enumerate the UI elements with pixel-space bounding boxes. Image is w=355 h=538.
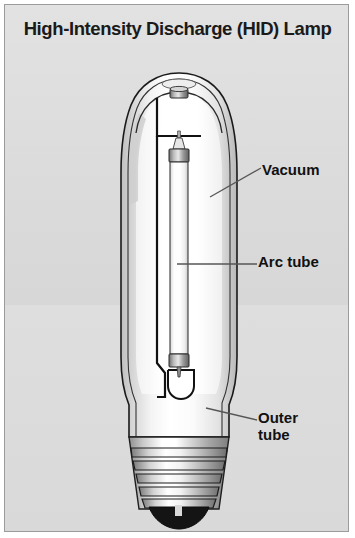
figure-root: High-Intensity Discharge (HID) Lamp (0, 0, 355, 538)
arc-tube-top-tip (178, 131, 181, 138)
screw-thread-3 (136, 474, 222, 483)
arc-tube-top-cap (169, 149, 189, 162)
screw-base-group (129, 437, 229, 529)
arc-tube-bottom-tip (177, 367, 181, 377)
arc-tube-bottom-cap (169, 354, 189, 367)
label-vacuum: Vacuum (262, 162, 320, 179)
label-arc-tube: Arc tube (258, 254, 319, 271)
figure-title-bar: High-Intensity Discharge (HID) Lamp (5, 18, 349, 40)
arc-tube-group (169, 131, 189, 377)
screw-thread-2 (133, 461, 225, 470)
figure-frame: High-Intensity Discharge (HID) Lamp (4, 4, 349, 532)
page-title: High-Intensity Discharge (HID) Lamp (24, 18, 332, 40)
base-center-contact-highlight (175, 505, 182, 516)
screw-thread-1 (131, 448, 227, 457)
arc-tube-body (170, 162, 188, 354)
label-outer-tube: Outer tube (258, 410, 298, 444)
exhaust-tip-top (170, 86, 188, 91)
screw-thread-4 (139, 487, 219, 496)
